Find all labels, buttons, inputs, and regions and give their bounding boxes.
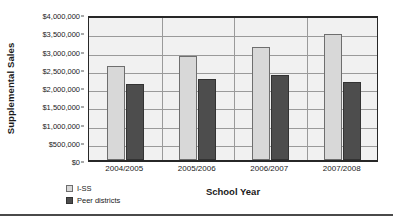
y-axis-tick-label: $1,500,000 [42, 103, 80, 112]
y-axis-tick-mark [81, 52, 84, 53]
y-axis-title-label: Supplemental Sales [6, 42, 17, 134]
bar-2004-2005-i-ss [107, 66, 125, 160]
y-axis-tick-mark [81, 70, 84, 71]
y-axis-tick-mark [81, 34, 84, 35]
bar-2007-2008-i-ss [324, 34, 342, 160]
legend-swatch-icon [66, 185, 73, 192]
y-axis-tick-mark [81, 143, 84, 144]
y-axis-tick-mark [81, 125, 84, 126]
y-axis-tick-label: $0 [72, 158, 80, 167]
bar-2005-2006-peer-districts [198, 79, 216, 160]
bar-2006-2007-peer-districts [271, 75, 289, 160]
y-axis-tick-label: $2,000,000 [42, 85, 80, 94]
y-axis-tick-mark [81, 162, 84, 163]
legend-item[interactable]: Peer districts [66, 195, 176, 206]
y-axis-tick-mark [81, 16, 84, 17]
bars-layer [89, 18, 377, 160]
x-axis-tick-labels: 2004/20052005/20062006/20072007/2008 [88, 164, 378, 178]
x-axis-tick-label: 2007/2008 [323, 164, 361, 173]
y-axis-tick-label: $1,000,000 [42, 121, 80, 130]
legend-item[interactable]: I-SS [66, 183, 176, 194]
x-axis-tick-label: 2004/2005 [105, 164, 143, 173]
y-axis-tick-label: $4,000,000 [42, 12, 80, 21]
x-axis-tick-label: 2006/2007 [250, 164, 288, 173]
bar-2007-2008-peer-districts [343, 82, 361, 160]
plot-area [88, 16, 378, 162]
legend-item-label: I-SS [77, 184, 92, 193]
y-axis-tick-label: $2,500,000 [42, 66, 80, 75]
y-axis-tick-labels: $0$500,000$1,000,000$1,500,000$2,000,000… [20, 12, 84, 164]
bar-chart-figure: Supplemental Sales $0$500,000$1,000,000$… [0, 0, 393, 223]
y-axis-tick-label: $3,500,000 [42, 30, 80, 39]
x-axis-tick-label: 2005/2006 [178, 164, 216, 173]
bar-2006-2007-i-ss [252, 47, 270, 161]
legend-item-label: Peer districts [77, 196, 120, 205]
y-axis-title: Supplemental Sales [2, 18, 20, 158]
y-axis-tick-label: $500,000 [49, 139, 80, 148]
bar-2004-2005-peer-districts [126, 84, 144, 160]
y-axis-tick-label: $3,000,000 [42, 48, 80, 57]
y-axis-tick-mark [81, 89, 84, 90]
chart-legend: I-SSPeer districts [66, 183, 176, 207]
y-axis-tick-mark [81, 107, 84, 108]
footer-rule [0, 214, 393, 216]
bar-2005-2006-i-ss [179, 56, 197, 160]
legend-swatch-icon [66, 197, 73, 204]
